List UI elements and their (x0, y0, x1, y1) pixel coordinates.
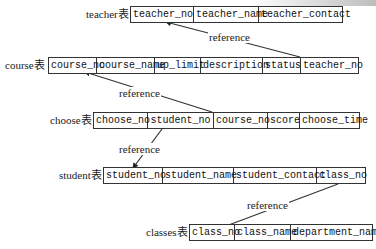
column-score: score (268, 113, 300, 128)
table-label-choose: choose表 (50, 112, 92, 129)
table-student: student_no student_name student_contact … (103, 167, 366, 184)
table-label-student: student表 (59, 167, 102, 184)
column-course-name: course_name (97, 58, 155, 73)
column-student-contact: student_contact (234, 168, 317, 183)
table-classes: class_no class_name department_name (189, 224, 373, 241)
column-student-no: student_no (148, 113, 214, 128)
column-choose-no: choose_no (94, 113, 148, 128)
column-department-name: department_name (291, 225, 372, 240)
table-choose: choose_no student_no course_no score cho… (93, 112, 360, 129)
column-class-no: class_no (317, 168, 365, 183)
reference-label: reference (118, 143, 161, 155)
column-teacher-no: teacher_no (131, 7, 194, 22)
table-course: course_no course_name up_limit descripti… (48, 57, 359, 74)
column-description: description (201, 58, 263, 73)
table-label-classes: classes表 (146, 224, 188, 241)
column-student-name: student_name (163, 168, 234, 183)
table-label-course: course表 (5, 57, 45, 74)
column-teacher-name: teacher_name (194, 7, 259, 22)
table-teacher: teacher_no teacher_name teacher_contact (130, 6, 343, 23)
column-choose-time: choose_time (300, 113, 359, 128)
column-teacher-no: teacher_no (301, 58, 358, 73)
reference-label: reference (118, 87, 161, 99)
column-course-no: course_no (214, 113, 268, 128)
column-student-no: student_no (104, 168, 163, 183)
column-class-name: class_name (235, 225, 291, 240)
reference-label: reference (246, 199, 289, 211)
column-course-no: course_no (49, 58, 97, 73)
column-up-limit: up_limit (155, 58, 201, 73)
column-teacher-contact: teacher_contact (259, 7, 342, 22)
column-status: status (263, 58, 301, 73)
reference-label: reference (208, 31, 251, 43)
table-label-teacher: teacher表 (86, 6, 129, 23)
column-class-no: class_no (190, 225, 235, 240)
